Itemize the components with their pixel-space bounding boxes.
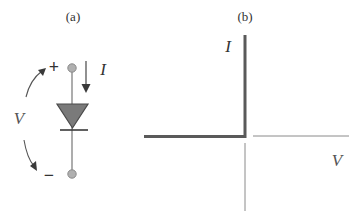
- voltage-arrow-down: [24, 140, 34, 166]
- plus-sign: +: [49, 57, 59, 77]
- panel-b-label: (b): [237, 9, 252, 24]
- voltage-label: V: [14, 109, 27, 128]
- diagram-canvas: (a) I + − V (b) I V: [0, 0, 359, 215]
- panel-a: (a) I + − V: [14, 9, 107, 185]
- diode-symbol-icon: [57, 104, 88, 128]
- panel-a-label: (a): [66, 9, 80, 24]
- current-label: I: [99, 60, 107, 79]
- negative-terminal: [68, 170, 76, 178]
- voltage-arrowhead-up-icon: [38, 68, 46, 76]
- current-arrow-icon: [82, 84, 91, 93]
- y-axis-label: I: [224, 37, 232, 56]
- voltage-arrow-up: [26, 71, 42, 97]
- x-axis-label: V: [332, 151, 345, 170]
- minus-sign: −: [44, 165, 54, 185]
- panel-b: (b) I V: [144, 9, 349, 211]
- positive-terminal: [68, 64, 76, 72]
